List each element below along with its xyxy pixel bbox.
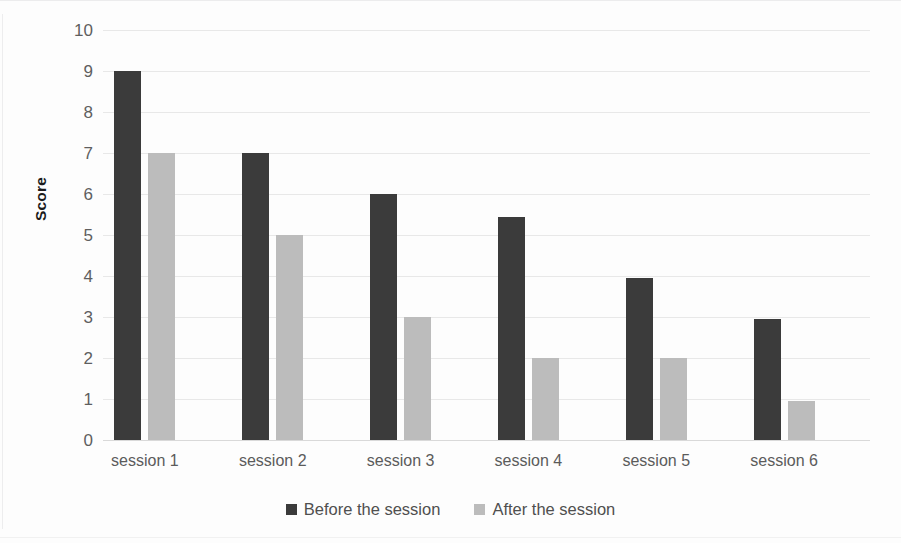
bar-chart: Score 012345678910 session 1session 2ses…	[0, 0, 901, 543]
y-tick-label: 6	[53, 186, 93, 203]
y-tick-label: 9	[53, 63, 93, 80]
y-tick-label: 1	[53, 391, 93, 408]
y-tick-label: 3	[53, 309, 93, 326]
y-axis-tick-labels: 012345678910	[43, 30, 93, 440]
chart-frame-left	[2, 14, 3, 529]
chart-legend: Before the sessionAfter the session	[0, 500, 901, 519]
y-tick-label: 2	[53, 350, 93, 367]
gridline	[103, 71, 870, 72]
gridline	[103, 317, 870, 318]
x-tick-label: session 1	[111, 452, 179, 470]
bar	[660, 358, 687, 440]
bar	[370, 194, 397, 440]
x-axis-tick-labels: session 1session 2session 3session 4sess…	[103, 452, 870, 478]
gridline	[103, 112, 870, 113]
gridline	[103, 194, 870, 195]
bar	[754, 319, 781, 440]
gridline	[103, 235, 870, 236]
gridline	[103, 276, 870, 277]
bar	[788, 401, 815, 440]
bar	[532, 358, 559, 440]
x-tick-label: session 5	[622, 452, 690, 470]
chart-frame-top	[0, 0, 901, 1]
gridline	[103, 30, 870, 31]
y-tick-label: 4	[53, 268, 93, 285]
bar	[114, 71, 141, 440]
gridline	[103, 153, 870, 154]
y-tick-label: 7	[53, 145, 93, 162]
y-tick-label: 10	[53, 22, 93, 39]
legend-item[interactable]: After the session	[474, 500, 615, 519]
y-tick-label: 0	[53, 432, 93, 449]
x-tick-label: session 6	[750, 452, 818, 470]
legend-swatch-icon	[474, 504, 485, 515]
x-axis-line	[103, 440, 870, 441]
legend-item[interactable]: Before the session	[286, 500, 441, 519]
plot-area	[103, 30, 870, 440]
x-tick-label: session 4	[495, 452, 563, 470]
bar	[626, 278, 653, 440]
legend-label: After the session	[492, 500, 615, 519]
y-tick-label: 5	[53, 227, 93, 244]
bar	[276, 235, 303, 440]
bar	[148, 153, 175, 440]
legend-swatch-icon	[286, 504, 297, 515]
bar	[242, 153, 269, 440]
y-tick-label: 8	[53, 104, 93, 121]
bar	[498, 217, 525, 440]
legend-label: Before the session	[304, 500, 441, 519]
x-tick-label: session 3	[367, 452, 435, 470]
bar	[404, 317, 431, 440]
chart-frame-bottom	[0, 537, 901, 538]
x-tick-label: session 2	[239, 452, 307, 470]
